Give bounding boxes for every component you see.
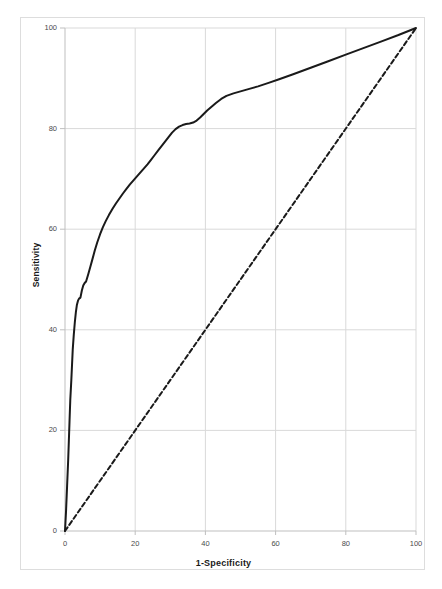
x-axis-title: 1-Specificity — [21, 558, 426, 568]
x-tick-label: 80 — [333, 539, 359, 548]
x-tick-label: 20 — [122, 539, 148, 548]
x-tick-label: 0 — [52, 539, 78, 548]
x-tick-label: 100 — [403, 539, 429, 548]
y-tick-label: 100 — [31, 23, 57, 32]
y-tick-label: 80 — [31, 124, 57, 133]
x-tick-label: 60 — [263, 539, 289, 548]
y-tick-label: 40 — [31, 325, 57, 334]
data-series — [65, 28, 416, 531]
figure-container: 020406080100 020406080100 Sensitivity 1-… — [20, 17, 425, 570]
page-header-fragment — [24, 0, 224, 8]
roc-chart — [21, 18, 424, 569]
page-canvas: 020406080100 020406080100 Sensitivity 1-… — [0, 0, 442, 589]
y-axis-title: Sensitivity — [31, 220, 41, 310]
x-tick-label: 40 — [192, 539, 218, 548]
y-tick-label: 20 — [31, 425, 57, 434]
y-tick-label: 0 — [31, 526, 57, 535]
reference-diagonal-line — [65, 28, 416, 531]
